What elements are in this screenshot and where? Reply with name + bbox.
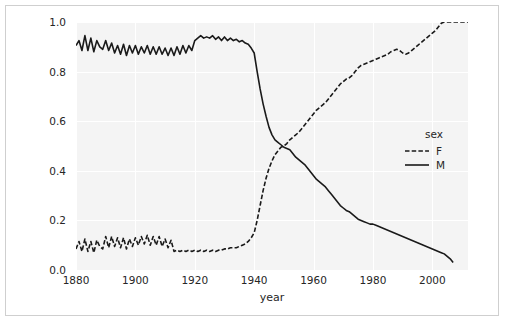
- legend-entry-m[interactable]: M: [404, 158, 470, 172]
- legend-label: M: [436, 159, 445, 171]
- legend-entries: FM: [404, 144, 470, 172]
- legend: sex FM: [404, 128, 470, 172]
- x-tick-label: 1880: [46, 275, 106, 285]
- x-tick-label: 2000: [402, 275, 462, 285]
- y-tick-label: 1.0: [0, 17, 66, 27]
- chart-figure: 0.00.20.40.60.81.0 188019001920194019601…: [0, 0, 505, 322]
- x-tick-label: 1940: [224, 275, 284, 285]
- legend-label: F: [436, 145, 442, 157]
- legend-entry-f[interactable]: F: [404, 144, 470, 158]
- y-tick-label: 0.2: [0, 215, 66, 225]
- x-tick-label: 1960: [284, 275, 344, 285]
- y-tick-label: 0.0: [0, 265, 66, 275]
- series-line-m: [76, 36, 453, 263]
- x-tick-label: 1980: [343, 275, 403, 285]
- y-tick-label: 0.4: [0, 166, 66, 176]
- x-tick-label: 1920: [165, 275, 225, 285]
- x-tick-label: 1900: [105, 275, 165, 285]
- x-axis-label: year: [76, 291, 468, 304]
- legend-swatch-f-icon: [404, 146, 430, 156]
- y-tick-label: 0.6: [0, 116, 66, 126]
- legend-swatch-m-icon: [404, 160, 430, 170]
- legend-title: sex: [398, 128, 470, 140]
- y-tick-label: 0.8: [0, 67, 66, 77]
